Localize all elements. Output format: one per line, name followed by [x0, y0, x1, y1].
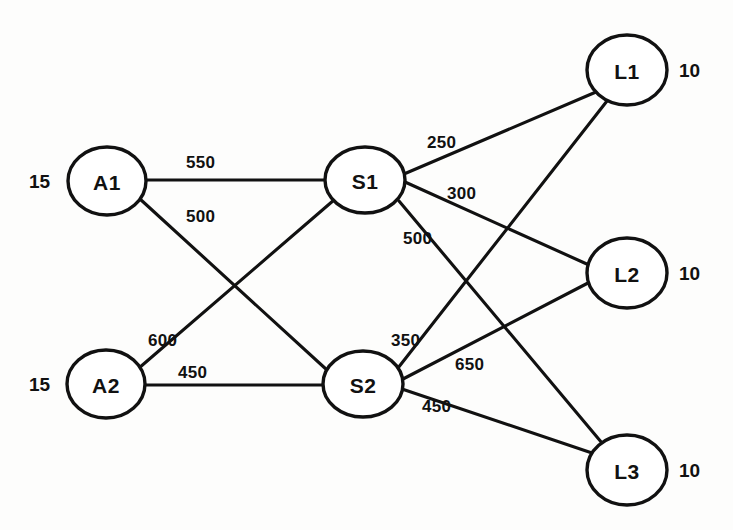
quantity-label-l2: 10: [679, 264, 700, 283]
quantity-label-l1: 10: [679, 61, 700, 80]
network-graph: A1A2S1S2L1L2L3: [0, 0, 733, 530]
node-s1[interactable]: S1: [325, 147, 405, 213]
node-l2[interactable]: L2: [587, 238, 667, 308]
node-s2[interactable]: S2: [323, 351, 403, 417]
node-label-s1: S1: [352, 170, 379, 193]
edge-s2-l2: [403, 283, 588, 379]
edge-weight-s1-l2: 300: [447, 185, 476, 202]
edge-weight-a2-s2: 450: [178, 364, 207, 381]
edge-weight-s2-l2: 650: [455, 356, 484, 373]
node-layer: A1A2S1S2L1L2L3: [67, 35, 667, 505]
quantity-label-a1: 15: [29, 172, 50, 191]
node-l3[interactable]: L3: [587, 435, 667, 505]
node-label-s2: S2: [350, 374, 377, 397]
network-diagram-canvas: A1A2S1S2L1L2L3 5505006004502503005003506…: [0, 0, 733, 530]
node-l1[interactable]: L1: [587, 35, 667, 105]
edge-weight-a1-s1: 550: [186, 154, 215, 171]
edge-weight-a2-s1: 600: [148, 332, 177, 349]
node-a2[interactable]: A2: [67, 350, 145, 418]
edge-weight-s2-l1: 350: [391, 332, 420, 349]
edge-weight-a1-s2: 500: [186, 208, 215, 225]
node-label-l1: L1: [614, 60, 640, 83]
node-label-a1: A1: [93, 171, 121, 194]
node-label-l2: L2: [614, 263, 640, 286]
edge-weight-s2-l3: 450: [422, 398, 451, 415]
quantity-label-l3: 10: [679, 461, 700, 480]
edge-weight-s1-l1: 250: [427, 134, 456, 151]
edge-weight-s1-l3: 500: [403, 230, 432, 247]
node-label-l3: L3: [614, 460, 640, 483]
quantity-label-a2: 15: [29, 375, 50, 394]
node-label-a2: A2: [92, 374, 120, 397]
node-a1[interactable]: A1: [68, 147, 146, 215]
edge-s1-l2: [405, 182, 589, 265]
